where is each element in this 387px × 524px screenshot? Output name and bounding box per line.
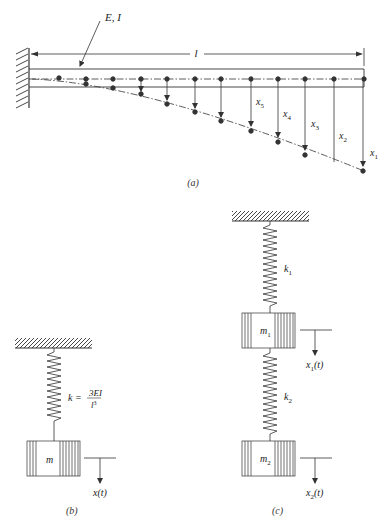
fixed-wall-icon (16, 48, 29, 108)
length-label: l (194, 47, 197, 59)
stiffness-numerator: 3EI (88, 388, 103, 398)
mass-block (27, 441, 80, 476)
displacement-vectors (57, 76, 366, 173)
figure-c-2dof: k1 m1 x1(t) k2 m2 x2(t) (c) (232, 211, 332, 517)
label-x4: x4 (282, 108, 291, 122)
disp-x1-label: x1(t) (305, 359, 324, 373)
displacement-label: x(t) (92, 487, 108, 499)
spring-k2-icon (263, 348, 277, 441)
label-x2: x2 (338, 130, 347, 144)
ceiling-icon-c (232, 211, 309, 221)
beam-property-label: E, I (104, 11, 122, 23)
label-x5: x5 (255, 96, 264, 110)
caption-a: (a) (187, 177, 199, 189)
mass-label: m (46, 454, 53, 465)
stiffness-prefix: k = (68, 392, 82, 403)
figure-b-sdof: k = 3EI l3 m x(t) (b) (15, 338, 116, 517)
label-x3: x3 (310, 118, 319, 132)
disp-x2-label: x2(t) (305, 487, 324, 501)
mass-m2-label: m2 (260, 453, 271, 467)
spring-k1-icon (263, 221, 277, 313)
figure-a-cantilever: l E, I (16, 11, 378, 189)
caption-b: (b) (66, 505, 78, 517)
spring-icon (47, 348, 61, 441)
spring-k2-label: k2 (284, 391, 292, 405)
diagram-canvas: l E, I (0, 0, 387, 524)
label-x1: x1 (369, 147, 378, 161)
mass-m1-label: m1 (260, 325, 271, 339)
stiffness-denominator: l3 (91, 400, 97, 410)
beam-pointer-arrow-icon (80, 21, 100, 66)
ceiling-icon (15, 338, 92, 348)
spring-k1-label: k1 (284, 263, 292, 277)
caption-c: (c) (272, 505, 284, 517)
